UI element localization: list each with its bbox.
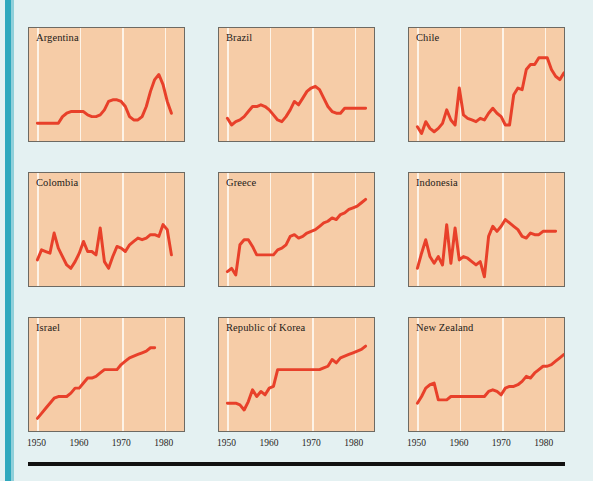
panel-republic-of-korea: Republic of Korea: [218, 317, 375, 432]
x-tick-1970: 1970: [492, 438, 511, 448]
panel-title: Chile: [416, 32, 439, 43]
series-line: [29, 173, 184, 286]
series-line: [219, 28, 374, 141]
x-tick-1980: 1980: [344, 438, 363, 448]
series-line: [409, 318, 564, 431]
panel-plot-area: Argentina: [28, 27, 185, 142]
panel-plot-area: Colombia: [28, 172, 185, 287]
panel-title: Indonesia: [416, 177, 458, 188]
x-tick-1960: 1960: [69, 438, 88, 448]
x-tick-1950: 1950: [217, 438, 236, 448]
panel-plot-area: Greece: [218, 172, 375, 287]
panel-greece: Greece: [218, 172, 375, 287]
panel-indonesia: Indonesia: [408, 172, 565, 287]
bottom-rule: [28, 462, 565, 466]
panel-title: New Zealand: [416, 322, 473, 333]
panel-brazil: Brazil: [218, 27, 375, 142]
panel-title: Republic of Korea: [226, 322, 305, 333]
panel-plot-area: Israel: [28, 317, 185, 432]
x-axis-tick-labels: 1950196019701980: [218, 438, 375, 454]
series-line: [29, 28, 184, 141]
panel-title: Israel: [36, 322, 60, 333]
panel-plot-area: Brazil: [218, 27, 375, 142]
x-tick-1950: 1950: [407, 438, 426, 448]
series-line: [219, 173, 374, 286]
figure-canvas: ArgentinaBrazilChileColombiaGreeceIndone…: [0, 0, 593, 481]
x-tick-1960: 1960: [259, 438, 278, 448]
series-line: [409, 173, 564, 286]
x-tick-1970: 1970: [112, 438, 131, 448]
panel-plot-area: Chile: [408, 27, 565, 142]
panel-argentina: Argentina: [28, 27, 185, 142]
panel-title: Colombia: [36, 177, 78, 188]
panel-plot-area: New Zealand: [408, 317, 565, 432]
series-line: [409, 28, 564, 141]
x-tick-1980: 1980: [154, 438, 173, 448]
panel-plot-area: Republic of Korea: [218, 317, 375, 432]
series-line: [219, 318, 374, 431]
x-tick-1970: 1970: [302, 438, 321, 448]
x-axis-tick-labels: 1950196019701980: [28, 438, 185, 454]
small-multiples-grid: ArgentinaBrazilChileColombiaGreeceIndone…: [0, 0, 593, 481]
panel-title: Greece: [226, 177, 256, 188]
x-axis-tick-labels: 1950196019701980: [408, 438, 565, 454]
panel-israel: Israel: [28, 317, 185, 432]
panel-title: Brazil: [226, 32, 252, 43]
panel-title: Argentina: [36, 32, 79, 43]
panel-colombia: Colombia: [28, 172, 185, 287]
panel-chile: Chile: [408, 27, 565, 142]
panel-new-zealand: New Zealand: [408, 317, 565, 432]
x-tick-1980: 1980: [534, 438, 553, 448]
x-tick-1960: 1960: [449, 438, 468, 448]
panel-plot-area: Indonesia: [408, 172, 565, 287]
series-line: [29, 318, 184, 431]
x-tick-1950: 1950: [27, 438, 46, 448]
